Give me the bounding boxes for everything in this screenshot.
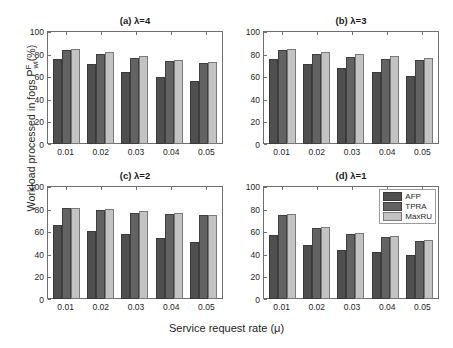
y-tick-label: 80	[251, 205, 260, 214]
subplot-a-bars	[47, 31, 223, 144]
bar-maxru	[174, 60, 183, 144]
bar-group	[337, 31, 364, 144]
bar-afp	[156, 238, 165, 299]
y-tick-label: 0	[39, 296, 44, 305]
y-tick-label: 100	[246, 183, 260, 192]
bar-group	[406, 31, 433, 144]
y-axis-label: Workload processed in fogs PFwl(%)	[25, 0, 37, 263]
bar-tpra	[346, 57, 355, 144]
bar-maxru	[424, 240, 433, 299]
bar-maxru	[424, 58, 433, 144]
bar-group	[303, 186, 330, 299]
x-tick-label: 0.02	[93, 303, 110, 312]
subplot-b-bars	[263, 31, 439, 144]
y-tick-label: 40	[251, 251, 260, 260]
bar-tpra	[312, 228, 321, 299]
bar-maxru	[105, 52, 114, 144]
legend-label-afp: AFP	[405, 193, 421, 201]
bar-tpra	[62, 208, 71, 299]
bar-tpra	[312, 54, 321, 144]
bar-group	[87, 31, 114, 144]
figure-canvas: Workload processed in fogs PFwl(%) Servi…	[0, 0, 453, 348]
x-tick-label: 0.01	[273, 303, 290, 312]
bar-group	[269, 31, 296, 144]
bar-afp	[372, 252, 381, 299]
x-axis-label: Service request rate (μ)	[0, 322, 453, 334]
y-tick-label: 0	[255, 141, 260, 150]
y-tick-label: 100	[30, 28, 44, 37]
y-tick-mark	[48, 144, 51, 145]
x-tick-label: 0.05	[198, 303, 215, 312]
bar-afp	[337, 250, 346, 299]
bar-afp	[190, 242, 199, 299]
y-tick-label: 20	[251, 118, 260, 127]
bar-group	[269, 186, 296, 299]
x-tick-label: 0.05	[198, 148, 215, 157]
bar-maxru	[105, 209, 114, 299]
legend-entry-maxru: MaxRU	[383, 212, 432, 221]
y-tick-label: 0	[39, 141, 44, 150]
bar-afp	[303, 245, 312, 299]
x-tick-label: 0.03	[344, 148, 361, 157]
bar-maxru	[71, 208, 80, 299]
bar-group	[121, 31, 148, 144]
bar-tpra	[130, 58, 139, 144]
bar-tpra	[165, 214, 174, 299]
bar-group	[190, 31, 217, 144]
bar-group	[53, 186, 80, 299]
bar-maxru	[139, 211, 148, 299]
bar-maxru	[174, 213, 183, 299]
bar-maxru	[321, 227, 330, 299]
y-tick-label: 20	[35, 273, 44, 282]
bar-tpra	[165, 61, 174, 144]
bar-afp	[269, 235, 278, 299]
x-tick-label: 0.05	[414, 303, 431, 312]
bar-maxru	[71, 49, 80, 144]
bar-group	[303, 31, 330, 144]
bar-tpra	[415, 60, 424, 144]
legend-swatch-tpra	[383, 202, 402, 211]
bar-afp	[406, 76, 415, 144]
y-axis-label-subscript: wl	[31, 61, 40, 68]
bar-tpra	[62, 50, 71, 144]
bar-group	[372, 31, 399, 144]
x-tick-label: 0.02	[93, 148, 110, 157]
y-tick-label: 60	[251, 228, 260, 237]
bar-tpra	[381, 237, 390, 299]
y-tick-label: 100	[246, 28, 260, 37]
y-tick-label: 20	[251, 273, 260, 282]
bar-tpra	[199, 63, 208, 144]
bar-maxru	[390, 56, 399, 144]
y-tick-label: 0	[255, 296, 260, 305]
bar-group	[337, 186, 364, 299]
x-tick-label: 0.04	[379, 303, 396, 312]
bar-tpra	[199, 215, 208, 299]
bar-afp	[53, 59, 62, 144]
y-tick-label: 40	[35, 96, 44, 105]
legend: AFPTPRAMaxRU	[379, 189, 436, 224]
bar-tpra	[96, 54, 105, 144]
x-tick-label: 0.01	[57, 148, 74, 157]
bar-afp	[87, 64, 96, 144]
subplot-a-title: (a) λ=4	[47, 15, 223, 26]
subplot-b: (b) λ=3 0204060801000.010.020.030.040.05	[263, 31, 439, 144]
bar-maxru	[287, 49, 296, 144]
bar-afp	[121, 234, 130, 299]
x-tick-label: 0.01	[273, 148, 290, 157]
x-tick-label: 0.02	[309, 303, 326, 312]
bar-group	[190, 186, 217, 299]
y-tick-label: 60	[35, 228, 44, 237]
y-tick-mark	[264, 144, 267, 145]
bar-maxru	[355, 233, 364, 299]
bar-afp	[372, 72, 381, 144]
y-tick-label: 80	[251, 50, 260, 59]
legend-label-tpra: TPRA	[405, 203, 426, 211]
bar-maxru	[208, 215, 217, 299]
subplot-d: (d) λ=1 0204060801000.010.020.030.040.05…	[263, 186, 439, 299]
bar-afp	[121, 72, 130, 144]
y-tick-mark	[48, 299, 51, 300]
x-tick-label: 0.04	[163, 303, 180, 312]
bar-tpra	[96, 210, 105, 299]
y-tick-mark	[264, 299, 267, 300]
y-tick-label: 80	[35, 50, 44, 59]
